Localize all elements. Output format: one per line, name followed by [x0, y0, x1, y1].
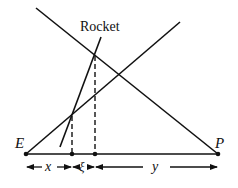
point-p: [216, 152, 221, 157]
earth-label: E: [14, 135, 24, 151]
light-line-from-e: [26, 22, 180, 154]
point-e: [24, 152, 29, 157]
xi-label: ξ: [79, 159, 85, 174]
x-label: x: [44, 159, 52, 174]
point-xi: [93, 152, 98, 157]
light-line-to-p: [36, 8, 218, 154]
rocket-spacetime-diagram: Rocket E P x ξ y: [0, 0, 238, 188]
planet-label: P: [214, 135, 224, 151]
point-x: [70, 152, 75, 157]
rocket-label: Rocket: [80, 19, 120, 34]
y-label: y: [150, 159, 159, 174]
